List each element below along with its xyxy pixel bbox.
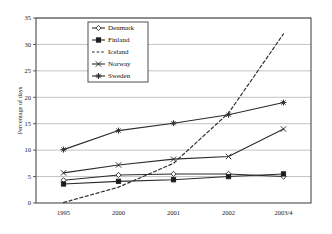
marker-filled-square: [61, 182, 65, 186]
x-axis-labels: 19952000200120022003/4: [57, 209, 293, 216]
marker-asterisk: [61, 147, 67, 153]
legend-item-label: Finland: [108, 36, 130, 44]
marker-cross: [281, 126, 286, 131]
series-norway: [61, 126, 286, 175]
marker-asterisk: [281, 100, 287, 106]
marker-filled-square: [116, 179, 120, 183]
y-tick-label: 30: [25, 41, 32, 48]
series-line: [64, 129, 284, 173]
marker-filled-square: [171, 178, 175, 182]
legend-item-label: Sweden: [108, 72, 131, 80]
y-tick-label: 5: [28, 173, 31, 180]
x-tick-label: 2001: [167, 209, 180, 216]
marker-filled-square: [96, 38, 100, 42]
gridlines: 05101520253035: [25, 14, 312, 206]
line-chart: 05101520253035Percentage of days19952000…: [0, 0, 332, 234]
y-axis-title-text: Percentage of days: [16, 86, 23, 134]
marker-filled-square: [226, 174, 230, 178]
marker-asterisk: [96, 73, 102, 79]
marker-open-diamond: [171, 171, 176, 176]
marker-asterisk: [226, 112, 232, 118]
y-tick-label: 15: [25, 120, 32, 127]
legend: DenmarkFinlandIcelandNorwaySweden: [88, 22, 148, 82]
y-tick-label: 25: [25, 67, 32, 74]
marker-asterisk: [171, 120, 177, 126]
x-tick-label: 2003/4: [274, 209, 293, 216]
y-tick-label: 20: [25, 94, 32, 101]
chart-canvas: 05101520253035Percentage of days19952000…: [0, 0, 332, 234]
y-tick-label: 35: [25, 14, 32, 21]
legend-item-label: Norway: [108, 60, 131, 68]
x-tick-label: 2002: [222, 209, 235, 216]
marker-filled-square: [281, 172, 285, 176]
legend-item-label: Iceland: [108, 48, 129, 56]
x-tick-label: 2000: [112, 209, 125, 216]
x-tick-label: 1995: [57, 209, 70, 216]
y-tick-label: 10: [25, 146, 32, 153]
y-tick-label: 0: [28, 199, 31, 206]
legend-item-label: Denmark: [108, 24, 135, 32]
y-axis-title: Percentage of days: [16, 86, 23, 134]
marker-asterisk: [116, 128, 122, 134]
